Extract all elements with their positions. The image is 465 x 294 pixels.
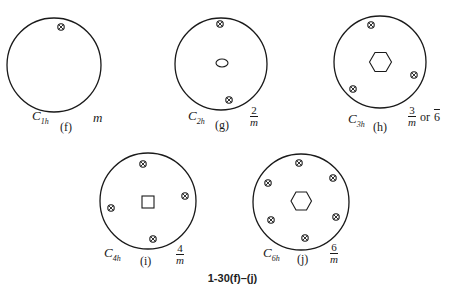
hm-symbol-g: 2m (250, 104, 258, 128)
pole-marker-icon (265, 180, 271, 186)
hm-symbol-h: 3m or 6 (408, 105, 440, 128)
hm-symbol-j: 6m (330, 241, 338, 265)
primitive-circle (7, 18, 101, 112)
pole-marker-icon (268, 217, 274, 223)
stereogram-figure (0, 0, 465, 294)
pole-marker-icon (58, 24, 64, 30)
schoenflies-label-i: C4h (104, 246, 121, 263)
twofold-axis-icon (216, 59, 228, 67)
primitive-circle (334, 16, 426, 108)
primitive-circle (253, 154, 349, 250)
pole-marker-icon (330, 175, 336, 181)
pole-marker-icon (150, 236, 156, 242)
stereogram-h (334, 16, 426, 108)
diagram-letter-g: (g) (215, 119, 229, 131)
schoenflies-label-g: C2h (188, 109, 205, 126)
diagram-letter-i: (i) (140, 255, 151, 267)
schoenflies-label-j: C6h (263, 246, 280, 263)
pole-marker-icon (217, 21, 223, 27)
pole-marker-icon (333, 214, 339, 220)
pole-marker-icon (108, 205, 114, 211)
pole-marker-icon (140, 161, 146, 167)
hexagon-axis-icon (370, 53, 392, 72)
diagram-letter-h: (h) (373, 121, 387, 133)
hexagon-axis-icon (291, 192, 312, 210)
pole-marker-icon (350, 86, 356, 92)
stereogram-i (100, 153, 196, 249)
pole-marker-icon (368, 22, 374, 28)
diagram-letter-f: (f) (60, 121, 72, 133)
hm-symbol-i: 4m (176, 242, 184, 266)
stereogram-f (7, 18, 101, 112)
pole-marker-icon (226, 97, 232, 103)
hm-symbol-f: m (93, 111, 102, 124)
figure-caption: 1-30(f)–(j) (0, 272, 465, 284)
pole-marker-icon (182, 193, 188, 199)
stereogram-g (175, 18, 267, 110)
schoenflies-label-f: C1h (32, 109, 49, 126)
schoenflies-label-h: C3h (348, 112, 365, 129)
pole-marker-icon (302, 235, 308, 241)
pole-marker-icon (296, 160, 302, 166)
square-axis-icon (142, 196, 154, 208)
diagram-letter-j: (j) (297, 253, 308, 265)
primitive-circle (175, 18, 267, 110)
pole-marker-icon (411, 72, 417, 78)
stereogram-j (253, 154, 349, 250)
primitive-circle (100, 153, 196, 249)
